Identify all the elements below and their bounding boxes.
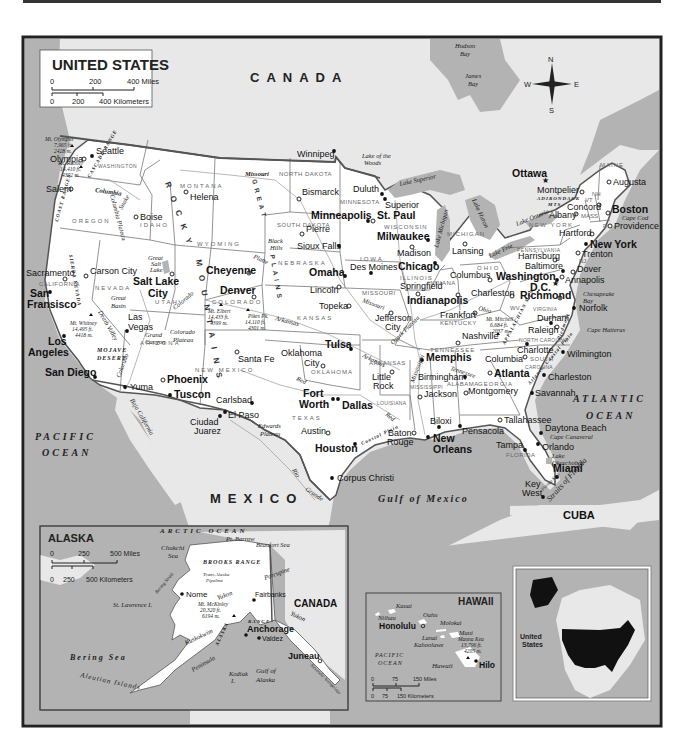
city-label: Miami bbox=[553, 462, 583, 474]
label-kahoolawe: Kahoolawe bbox=[413, 641, 444, 648]
label-adirondack-mts: ADIRONDACK bbox=[536, 196, 580, 201]
city-label: Las bbox=[128, 312, 143, 322]
city-label: Santa Fe bbox=[238, 354, 275, 364]
label-lake-of-the-woods-2: Woods bbox=[364, 159, 382, 166]
city-label: Worth bbox=[299, 398, 329, 410]
city-label: Baltimore bbox=[525, 261, 563, 271]
hawaii-scale-mile-75: 75 bbox=[392, 676, 398, 682]
city-dot-icon bbox=[523, 448, 527, 452]
alaska-scale-km-500: 500 Kilometers bbox=[86, 576, 133, 583]
state-capital-icon bbox=[321, 364, 325, 368]
city-label: Yuma bbox=[130, 382, 153, 392]
compass-s: S bbox=[549, 106, 554, 115]
label-maine: MAINE bbox=[600, 162, 624, 168]
label-utah: UTAH bbox=[155, 299, 179, 305]
peak-elbert-m: 4399 m. bbox=[210, 320, 228, 326]
valdez-dot bbox=[257, 636, 261, 640]
city-label: St. Paul bbox=[377, 209, 416, 221]
city-label: Vegas bbox=[128, 322, 154, 332]
label-lanai: Lanai bbox=[421, 634, 437, 641]
city-label: Corpus Christi bbox=[337, 473, 394, 483]
peak-mauna-kea-m: 4205 m. bbox=[464, 648, 482, 654]
city-dot-icon bbox=[426, 435, 430, 439]
city-label: Montpelier bbox=[537, 185, 579, 195]
city-label: City bbox=[385, 322, 401, 332]
compass-n: N bbox=[548, 55, 553, 64]
state-capital-icon bbox=[606, 211, 610, 215]
city-honolulu: Honolulu bbox=[379, 621, 416, 631]
label-colorado-plateau-2: Plateau bbox=[172, 336, 194, 343]
fairbanks-dot bbox=[252, 598, 256, 602]
city-label: Duluth bbox=[353, 184, 379, 194]
city-dot-icon bbox=[536, 442, 540, 446]
label-gulf-of-alaska-2: Alaska bbox=[255, 676, 276, 684]
city-label: Rock bbox=[373, 381, 394, 391]
hawaii-scale-km-150: 150 Kilometers bbox=[397, 693, 434, 699]
alaska-scale-mile-500: 500 Miles bbox=[110, 550, 140, 557]
label-pacific-1: PACIFIC bbox=[35, 431, 96, 442]
city-dot-icon bbox=[542, 373, 546, 377]
state-capital-icon bbox=[456, 341, 460, 345]
label-black-hills: Black bbox=[268, 237, 283, 244]
peak-rainier-m: 4392 m. bbox=[62, 172, 80, 178]
state-capital-icon bbox=[607, 180, 611, 184]
city-dot-icon bbox=[530, 391, 534, 395]
city-label: Denver bbox=[220, 284, 256, 296]
city-label: Tampa bbox=[496, 440, 523, 450]
city-label: Trenton bbox=[582, 249, 613, 259]
city-label: City bbox=[148, 287, 168, 299]
city-dot-icon bbox=[584, 242, 588, 246]
label-gulf-of-mexico: Gulf of Mexico bbox=[378, 493, 469, 504]
label-cuba: CUBA bbox=[563, 509, 595, 521]
label-missouri-river: Missouri bbox=[244, 170, 269, 177]
label-great-basin: Great bbox=[111, 294, 126, 301]
label-pipeline: Trans Alaska bbox=[203, 572, 230, 577]
city-label: Winnipeg bbox=[297, 149, 335, 159]
state-capital-icon bbox=[84, 274, 88, 278]
city-label: Boise bbox=[140, 212, 163, 222]
scale-mile-200: 200 bbox=[89, 77, 102, 86]
label-massachusetts: MASS bbox=[581, 213, 598, 219]
label-kodiak-island: Kodiak bbox=[228, 670, 248, 677]
label-chukchi-sea-2: Sea bbox=[168, 552, 179, 560]
state-capital-icon bbox=[576, 251, 580, 255]
city-label: Sioux Falls bbox=[297, 241, 342, 251]
scale-km-400: 400 Kilometers bbox=[99, 97, 149, 106]
city-label: Pensacola bbox=[462, 426, 504, 436]
compass-e: E bbox=[574, 80, 579, 89]
city-label: Salem bbox=[46, 184, 72, 194]
state-capital-icon bbox=[488, 371, 492, 375]
city-label: San Diego bbox=[45, 366, 96, 378]
city-dot-icon bbox=[331, 397, 335, 401]
city-label: Carson City bbox=[90, 266, 138, 276]
city-label: Durham bbox=[537, 313, 569, 323]
city-label: Charleston bbox=[548, 372, 592, 382]
label-oregon: OREGON bbox=[72, 218, 111, 224]
city-dot-icon bbox=[539, 431, 543, 435]
label-gulf-of-alaska: Gulf of bbox=[256, 667, 277, 675]
label-grand-canyon-2: Canyon bbox=[145, 338, 165, 345]
label-texas: TEXAS bbox=[292, 415, 322, 421]
label-lake-of-the-woods: Lake of the bbox=[361, 152, 391, 159]
city-label: Milwaukee bbox=[377, 230, 430, 242]
label-new-hampshire: NH bbox=[592, 191, 601, 197]
city-label: Houston bbox=[315, 442, 358, 454]
city-label: Omaha bbox=[309, 266, 345, 278]
label-atlantic-2: OCEAN bbox=[586, 410, 635, 421]
alaska-title: ALASKA bbox=[48, 532, 94, 544]
city-label: Tuscon bbox=[174, 388, 211, 400]
hawaii-scale-mile-150: 150 Miles bbox=[413, 676, 437, 682]
label-michigan: MICHIGAN bbox=[447, 231, 485, 237]
city-label: Ottawa bbox=[512, 167, 547, 179]
city-label: Memphis bbox=[426, 351, 472, 363]
label-canada: CANADA bbox=[250, 70, 348, 85]
city-dot-icon bbox=[330, 476, 334, 480]
alaska-scale-km-250: 250 bbox=[63, 576, 75, 583]
compass-w: W bbox=[524, 80, 532, 89]
label-beaufort-sea: Beaufort Sea bbox=[256, 541, 290, 548]
city-label: Savannah bbox=[535, 388, 576, 398]
alaska-scale-mile-250: 250 bbox=[78, 550, 90, 557]
label-niihau: Niihau bbox=[377, 614, 396, 621]
label-molokai: Molokai bbox=[439, 619, 462, 626]
label-colorado: COLORADO bbox=[212, 299, 262, 305]
